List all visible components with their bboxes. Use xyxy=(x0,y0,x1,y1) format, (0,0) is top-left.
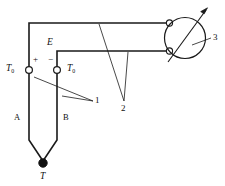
thermocouple-diagram: T0 T0 E + − A B T 1 2 3 xyxy=(0,0,225,186)
label-cold-junction-right-sub: 0 xyxy=(72,68,75,74)
callout-3-leader xyxy=(192,38,211,45)
terminal-cold-junction-right xyxy=(54,67,61,74)
callout-label-3: 3 xyxy=(213,33,218,42)
galvanometer-needle-icon xyxy=(168,8,208,62)
label-hot-junction: T xyxy=(40,172,45,182)
label-conductor-b: B xyxy=(63,113,69,122)
label-polarity-positive: + xyxy=(33,55,38,64)
label-cold-junction-right: T0 xyxy=(67,64,75,74)
callout-label-2: 2 xyxy=(121,104,126,113)
label-cold-junction-left-sub: 0 xyxy=(11,68,14,74)
callout-label-1: 1 xyxy=(95,96,100,105)
diagram-canvas xyxy=(0,0,225,186)
label-cold-junction-left: T0 xyxy=(6,64,14,74)
label-emf: E xyxy=(47,38,53,48)
terminal-cold-junction-left xyxy=(26,67,33,74)
hot-junction-node xyxy=(39,159,47,167)
callout-2-leaders xyxy=(99,24,128,101)
label-polarity-negative: − xyxy=(48,55,53,64)
callout-1-leaders xyxy=(34,77,93,101)
label-conductor-a: A xyxy=(14,113,20,122)
conductor-a-wire xyxy=(29,70,43,161)
